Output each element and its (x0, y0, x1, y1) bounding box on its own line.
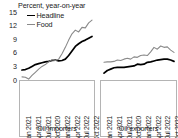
legend-swatch-headline-icon (27, 15, 35, 16)
y-axis: 15129630 (0, 0, 17, 138)
chart-legend: Headline Food (27, 11, 64, 29)
y-tick-label: 0 (3, 77, 17, 84)
inflation-chart-figure: Percent, year-on-year Headline Food 1512… (0, 0, 178, 138)
y-tick-label: 6 (3, 49, 17, 56)
plot-area-oil-exporters (101, 12, 176, 80)
y-tick-label: 9 (3, 36, 17, 43)
y-tick-label: 12 (3, 22, 17, 29)
series-line-headline-oil-importers (22, 36, 92, 70)
panel-caption-oil-importers: Oil importers (20, 124, 94, 133)
x-tick-list-oil-importers: Jan 2021Apr 2021Jul 2021Oct 2020Jan 2022… (20, 81, 94, 117)
x-axis-labels-oil-importers: Jan 2021Apr 2021Jul 2021Oct 2020Jan 2022… (19, 80, 95, 137)
chart-title: Percent, year-on-year (18, 1, 85, 10)
y-tick-label: 15 (3, 9, 17, 16)
legend-label-food: Food (37, 21, 53, 29)
line-chart-oil-exporters (101, 12, 176, 80)
panel-caption-oil-exporters: Oil exporters (101, 124, 176, 133)
legend-entry-food: Food (27, 20, 64, 29)
legend-entry-headline: Headline (27, 11, 64, 20)
x-tick-list-oil-exporters: Jan 2021Apr 2021Jul 2021Oct 2020Jan 2022… (101, 81, 176, 117)
legend-label-headline: Headline (37, 12, 65, 20)
x-axis-labels-oil-exporters: Jan 2021Apr 2021Jul 2021Oct 2020Jan 2022… (100, 80, 177, 137)
y-tick-label: 3 (3, 63, 17, 70)
legend-swatch-food-icon (27, 24, 35, 25)
